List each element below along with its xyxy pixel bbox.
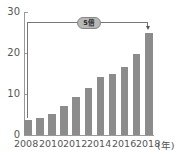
y-tick-10: 10: [6, 88, 20, 99]
x-tick-2014: 2014: [87, 138, 111, 149]
y-tick-30: 30: [6, 6, 20, 17]
x-tick-2010: 2010: [39, 138, 63, 149]
bar-2014: [97, 77, 105, 135]
ratio-badge: 5倍: [77, 17, 101, 29]
bar-2008: [24, 120, 32, 135]
bar-2015: [109, 74, 117, 135]
bar-chart: 0 10 20 30 2008 2010 2012 2014 2016 2018…: [0, 0, 177, 155]
bar-2009: [36, 118, 44, 135]
x-tick-2008: 2008: [14, 138, 38, 149]
bar-2016: [121, 67, 129, 135]
bar-2011: [60, 106, 68, 135]
annotation-left-leg: [27, 22, 28, 118]
bar-2017: [133, 54, 141, 135]
bar-2010: [48, 114, 56, 135]
bar-2018: [145, 33, 153, 136]
y-axis: [24, 12, 25, 136]
x-tick-2016: 2016: [112, 138, 136, 149]
bar-2012: [72, 97, 80, 135]
y-tickmark: [24, 12, 28, 13]
x-tick-2012: 2012: [63, 138, 87, 149]
bar-2013: [85, 88, 93, 135]
x-axis-unit: (年): [157, 138, 174, 152]
x-axis: [24, 135, 154, 136]
y-tick-20: 20: [6, 47, 20, 58]
arrow-down-icon: [146, 26, 150, 30]
